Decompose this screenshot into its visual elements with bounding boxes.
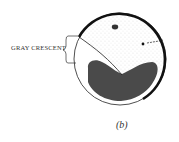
gray-crescent-label: GRAY CRESCENT xyxy=(11,44,66,51)
nucleus xyxy=(112,25,118,30)
panel-label: (b) xyxy=(116,119,128,130)
sperm-entry-dot xyxy=(142,43,145,46)
egg-diagram xyxy=(0,0,179,142)
